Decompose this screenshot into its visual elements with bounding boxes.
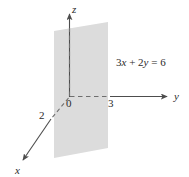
plane-equation-label: 3x + 2y = 6 [116,56,166,68]
equation-plus-sign: + [126,56,138,68]
y-intercept-label: 3 [108,97,114,109]
x-axis-label: x [14,164,20,176]
shaded-plane-region [54,22,108,158]
coordinate-system-figure: z y x 0 3 2 3x + 2y = 6 [0,0,189,177]
z-axis-label: z [71,3,77,15]
x-axis-line [23,119,51,160]
figure-container: z y x 0 3 2 3x + 2y = 6 [0,0,189,177]
origin-label: 0 [66,97,72,109]
y-axis-label: y [173,90,179,102]
equation-constant-6: 6 [160,56,166,68]
equation-equals-sign: = [149,56,161,68]
x-intercept-label: 2 [39,109,45,121]
